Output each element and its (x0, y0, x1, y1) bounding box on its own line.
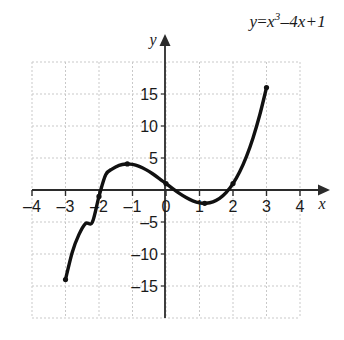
y-tick-label: –15 (131, 278, 158, 295)
x-axis-label: x (317, 195, 325, 212)
y-tick-label: –10 (131, 246, 158, 263)
x-tick-label: 3 (262, 198, 271, 215)
x-tick-labels: –4–3–2–101234 (23, 190, 304, 215)
y-tick-label: 15 (140, 86, 158, 103)
curve-point-marker (96, 194, 101, 199)
x-tick-label: –4 (23, 198, 41, 215)
x-tick-label: 2 (229, 198, 238, 215)
equation-label: y=x3–4x+1 (249, 10, 326, 32)
y-tick-label: –5 (140, 214, 158, 231)
curve-point-marker (125, 161, 130, 166)
x-tick-label: 4 (296, 198, 305, 215)
x-tick-label: –3 (57, 198, 75, 215)
y-axis-arrow-icon (160, 34, 171, 46)
cartesian-plot: –4–3–2–101234 –15–10–551015 x y (0, 0, 344, 340)
curve-point-marker (230, 181, 235, 186)
curve-point-marker (202, 201, 207, 206)
graph-figure: y=x3–4x+1 –4–3–2–101234 –15–10–551015 x … (0, 0, 344, 340)
equation-equals: = (257, 12, 267, 31)
y-axis-label: y (147, 31, 157, 49)
curve-point-marker (63, 277, 68, 282)
x-axis-arrow-icon (318, 185, 330, 196)
axes (32, 34, 330, 318)
x-tick-label: 0 (162, 198, 171, 215)
x-tick-label: –1 (124, 198, 142, 215)
curve-point-marker (163, 181, 168, 186)
equation-rest: –4x+1 (280, 12, 326, 31)
equation-base: x (267, 12, 275, 31)
y-tick-label: 10 (140, 118, 158, 135)
curve-point-marker (264, 85, 269, 90)
y-tick-label: 5 (149, 150, 158, 167)
